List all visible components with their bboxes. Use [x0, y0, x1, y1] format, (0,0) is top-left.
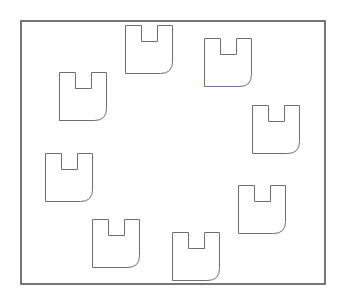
notched-piece: [239, 186, 286, 234]
notched-piece: [46, 154, 93, 202]
notched-piece: [126, 26, 173, 74]
notched-piece: [173, 233, 220, 281]
notched-piece: [205, 39, 252, 87]
notched-pieces-group: [46, 26, 300, 281]
notched-piece: [93, 220, 140, 268]
notched-piece: [60, 73, 107, 121]
diagram-canvas: [0, 0, 339, 297]
notched-piece: [253, 106, 300, 154]
